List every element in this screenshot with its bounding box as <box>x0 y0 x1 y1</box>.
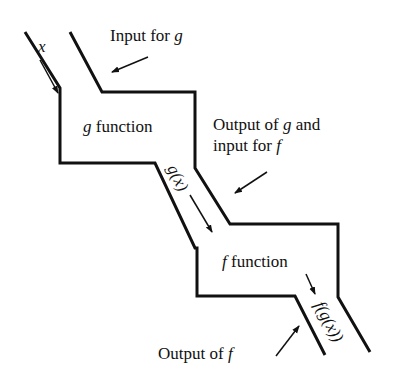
output-g-label-line1: Output of g and <box>213 115 321 134</box>
input-x-label: x <box>37 37 46 56</box>
composition-diagram: x Input for g g function Output of g and… <box>0 0 394 391</box>
output-f-arrow <box>276 326 299 356</box>
output-g-label-line2: input for f <box>213 136 283 155</box>
input-for-g-label: Input for g <box>110 26 183 45</box>
g-of-x-arrow <box>190 195 212 232</box>
input-x-arrow <box>40 60 58 93</box>
output-g-arrow <box>235 172 267 193</box>
g-function-label: g function <box>83 117 153 136</box>
f-function-arrow <box>306 274 315 294</box>
output-f-label: Output of f <box>158 344 235 363</box>
input-for-g-arrow <box>112 57 148 72</box>
f-function-label: f function <box>222 252 288 271</box>
